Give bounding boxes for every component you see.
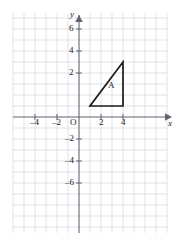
y-tick-label--6: –6 [65, 178, 74, 187]
coordinate-grid-figure: –4 –2 2 4 6 4 2 –2 –4 –6 O x y A [0, 0, 179, 243]
y-axis-arrow [75, 15, 83, 22]
coordinate-plane [0, 0, 179, 243]
x-tick-label-4: 4 [121, 118, 126, 127]
y-axis-label: y [70, 10, 74, 19]
origin-label: O [70, 118, 77, 127]
x-axis-label: x [168, 119, 172, 128]
x-tick-label-2: 2 [99, 118, 104, 127]
shape-label-a: A [108, 81, 115, 90]
y-tick-label-6: 6 [69, 24, 74, 33]
y-tick-label--2: –2 [65, 134, 74, 143]
x-tick-label--2: –2 [52, 118, 61, 127]
y-tick-label--4: –4 [65, 156, 74, 165]
y-tick-label-4: 4 [69, 46, 74, 55]
y-tick-label-2: 2 [69, 68, 74, 77]
x-tick-label--4: –4 [30, 118, 39, 127]
